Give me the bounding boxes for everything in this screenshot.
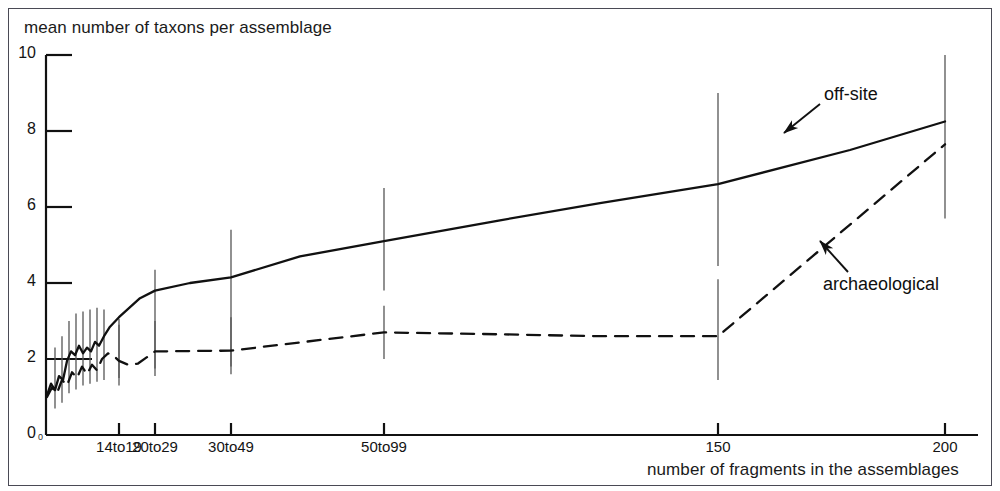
y-axis-tick-label: 10 [8,44,36,62]
x-axis-tick-label: 30to49 [181,438,281,455]
annotation-arrow [784,104,820,133]
plot-area [0,0,1000,491]
series-label-archaeological: archaeological [823,274,939,295]
error-bars [55,55,945,408]
axes-lines [46,55,978,435]
y-axis-tick-label: 4 [8,272,36,290]
data-series [47,122,945,398]
series-label-off-site: off-site [824,84,878,105]
series-line-archaeological [47,144,945,397]
chart-figure: mean number of taxons per assemblage num… [0,0,1000,491]
y-axis-tick-label: 6 [8,196,36,214]
annotation-arrow [820,241,848,272]
x-axis-tick-label: 150 [668,438,768,455]
annotation-arrows [784,104,848,272]
x-axis-tick-label: 200 [895,438,995,455]
y-axis-tick-label: 8 [8,120,36,138]
x-axis-tick-label: 50to99 [334,438,434,455]
y-axis-tick-label: 0 [8,424,36,442]
y-axis-tick-label: 2 [8,348,36,366]
